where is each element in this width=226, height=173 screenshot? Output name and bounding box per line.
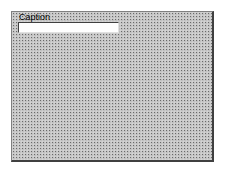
caption-label: Caption bbox=[18, 12, 51, 22]
form-design-surface[interactable]: Caption bbox=[11, 11, 214, 162]
caption-input[interactable] bbox=[18, 22, 119, 33]
